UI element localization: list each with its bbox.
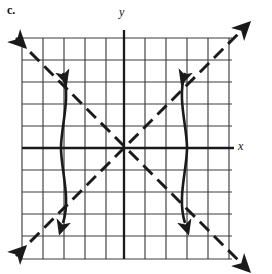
asymptote-positive-slope	[16, 32, 240, 256]
part-label: c.	[7, 4, 15, 16]
x-axis-label: x	[238, 140, 243, 152]
y-axis-label: y	[119, 6, 124, 18]
graph-canvas	[0, 0, 272, 274]
hyperbola-figure: c. y x	[0, 0, 272, 274]
asymptote-negative-slope	[16, 38, 240, 262]
